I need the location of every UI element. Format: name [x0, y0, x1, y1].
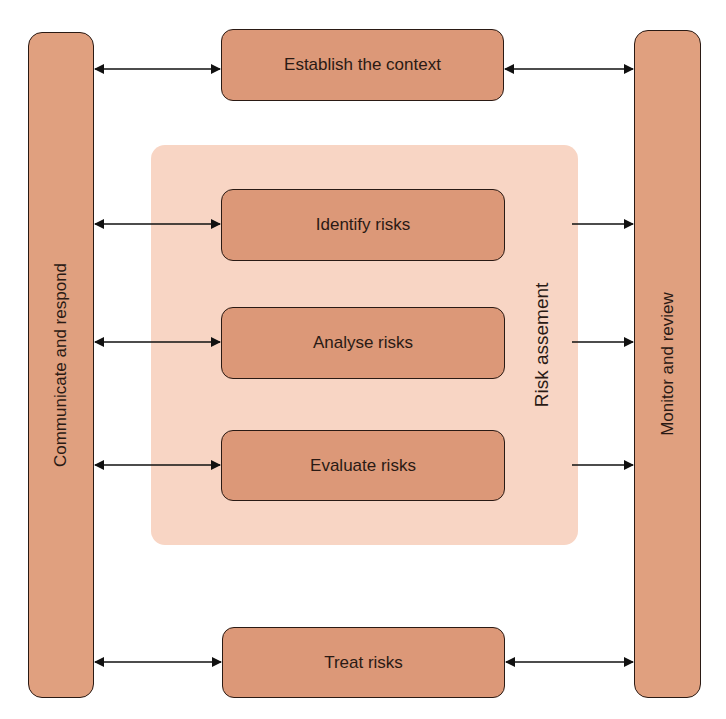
- connector-arrows: [0, 0, 726, 719]
